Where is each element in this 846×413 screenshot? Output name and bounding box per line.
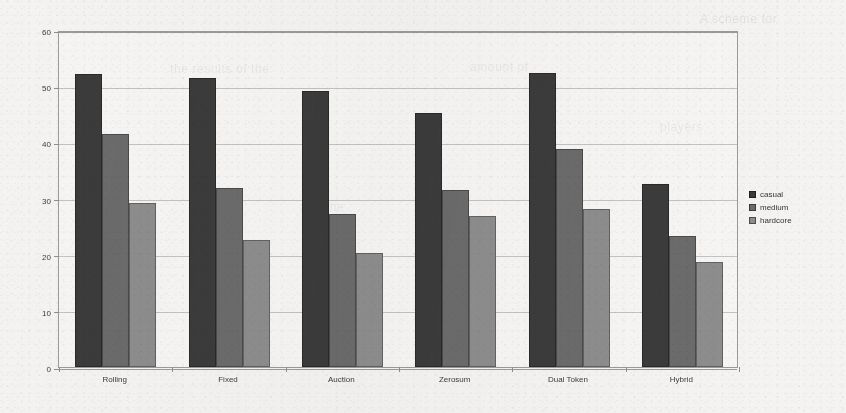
y-tick-label: 0 — [47, 365, 51, 374]
x-tick-label-rolling: Rolling — [102, 375, 126, 384]
y-tick-label: 20 — [42, 252, 51, 261]
bar-medium-dual-token — [556, 149, 583, 367]
legend-label: medium — [760, 203, 788, 212]
bar-medium-zerosum — [442, 190, 469, 367]
bar-casual-dual-token — [529, 73, 556, 367]
x-tick-mark — [399, 367, 400, 372]
x-tick-mark — [626, 367, 627, 372]
legend-swatch-hardcore — [749, 217, 756, 224]
bars-layer — [59, 32, 737, 367]
y-tick-label: 50 — [42, 84, 51, 93]
bar-hardcore-fixed — [243, 240, 270, 367]
gridline — [59, 369, 737, 370]
y-tick-label: 60 — [42, 28, 51, 37]
bar-casual-hybrid — [642, 184, 669, 367]
bar-casual-fixed — [189, 78, 216, 367]
plot-area: 0102030405060 — [58, 31, 738, 368]
bar-hardcore-auction — [356, 253, 383, 367]
x-tick-label-hybrid: Hybrid — [670, 375, 693, 384]
x-tick-mark — [286, 367, 287, 372]
x-tick-label-dual-token: Dual Token — [548, 375, 588, 384]
y-tick-label: 10 — [42, 308, 51, 317]
x-tick-label-auction: Auction — [328, 375, 355, 384]
x-tick-label-zerosum: Zerosum — [439, 375, 471, 384]
y-tick-label: 30 — [42, 196, 51, 205]
legend-label: hardcore — [760, 216, 792, 225]
bar-medium-auction — [329, 214, 356, 367]
bar-medium-fixed — [216, 188, 243, 367]
x-tick-mark — [739, 367, 740, 372]
bar-casual-rolling — [75, 74, 102, 367]
bar-hardcore-zerosum — [469, 216, 496, 367]
bar-casual-zerosum — [415, 113, 442, 367]
x-tick-label-fixed: Fixed — [218, 375, 238, 384]
y-tick-label: 40 — [42, 140, 51, 149]
bar-hardcore-dual-token — [583, 209, 610, 367]
bar-medium-hybrid — [669, 236, 696, 367]
x-tick-mark — [512, 367, 513, 372]
chart-legend: casualmediumhardcore — [749, 188, 792, 227]
bar-hardcore-hybrid — [696, 262, 723, 367]
bar-hardcore-rolling — [129, 203, 156, 367]
legend-swatch-medium — [749, 204, 756, 211]
legend-item-casual: casual — [749, 188, 792, 201]
bar-chart: 0102030405060 RollingFixedAuctionZerosum… — [0, 0, 846, 413]
x-tick-mark — [59, 367, 60, 372]
bar-casual-auction — [302, 91, 329, 367]
legend-item-hardcore: hardcore — [749, 214, 792, 227]
legend-label: casual — [760, 190, 783, 199]
x-tick-mark — [172, 367, 173, 372]
legend-item-medium: medium — [749, 201, 792, 214]
bar-medium-rolling — [102, 134, 129, 367]
legend-swatch-casual — [749, 191, 756, 198]
